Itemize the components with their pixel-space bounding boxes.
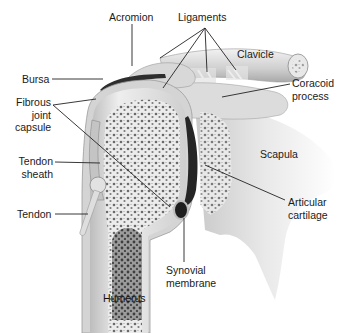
label-fibrous-joint-capsule: Fibrous joint capsule <box>15 96 51 134</box>
label-articular-cartilage: Articular cartilage <box>288 196 328 221</box>
humerus-marrow <box>112 228 142 320</box>
label-ligaments: Ligaments <box>178 11 226 24</box>
label-bursa: Bursa <box>22 73 49 86</box>
label-clavicle: Clavicle <box>237 48 274 61</box>
label-tendon: Tendon <box>17 208 51 221</box>
label-tendon-sheath: Tendon sheath <box>15 155 53 180</box>
shoulder-diagram: Acromion Ligaments Clavicle Coracoid pro… <box>0 0 342 333</box>
synovial-pocket <box>174 201 188 219</box>
label-humerus: Humerus <box>103 292 146 305</box>
label-acromion: Acromion <box>109 11 153 24</box>
label-scapula: Scapula <box>260 148 298 161</box>
label-coracoid-process: Coracoid process <box>292 77 334 102</box>
label-synovial-membrane: Synovial membrane <box>166 264 216 289</box>
